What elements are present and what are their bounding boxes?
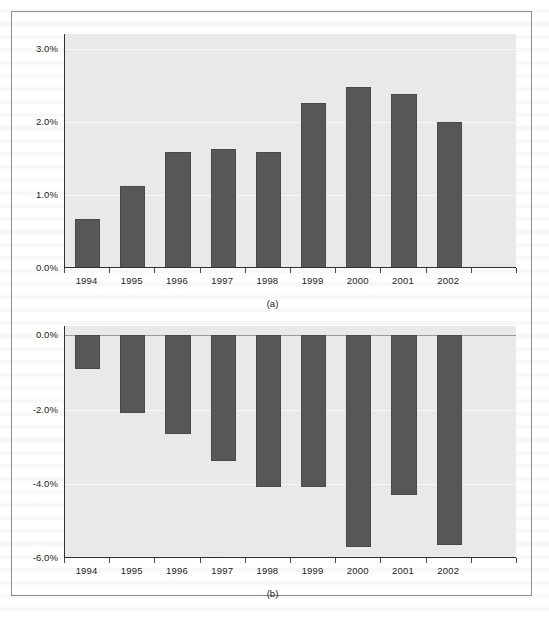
bar xyxy=(301,335,326,487)
plot-inner-a xyxy=(65,34,516,267)
bar xyxy=(301,103,326,267)
x-axis-tick xyxy=(200,558,201,563)
gridline xyxy=(65,49,516,50)
x-axis-tick xyxy=(335,558,336,563)
bar xyxy=(391,335,416,495)
x-axis-tick xyxy=(154,558,155,563)
bar xyxy=(165,335,190,433)
bar xyxy=(346,87,371,267)
chart-panel-b: 0.0%-2.0%-4.0%-6.0% 19941995199619971998… xyxy=(12,312,533,597)
x-axis-tick-label: 1999 xyxy=(302,565,324,576)
x-axis-tick xyxy=(245,268,246,273)
x-axis-tick-label: 2000 xyxy=(347,275,369,286)
chart-panel-a: 3.0%2.0%1.0%0.0% 19941995199619971998199… xyxy=(12,20,533,310)
x-axis-tick xyxy=(471,558,472,563)
x-axis-tick-label: 1996 xyxy=(166,275,188,286)
x-axis-a: 199419951996199719981999200020012002 xyxy=(64,268,516,296)
bar xyxy=(437,335,462,545)
x-axis-tick-label: 1995 xyxy=(121,565,143,576)
plot-area-b xyxy=(64,326,516,558)
x-axis-tick xyxy=(471,268,472,273)
x-axis-tick xyxy=(426,268,427,273)
x-axis-tick-label: 2002 xyxy=(437,275,459,286)
x-axis-tick-label: 2001 xyxy=(392,565,414,576)
bar xyxy=(165,152,190,267)
x-axis-tick xyxy=(290,268,291,273)
x-axis-tick xyxy=(290,558,291,563)
x-axis-tick xyxy=(245,558,246,563)
x-axis-tick-label: 1994 xyxy=(76,565,98,576)
bar xyxy=(211,149,236,267)
y-axis-tick-label: 1.0% xyxy=(36,190,58,200)
y-axis-tick-label: 0.0% xyxy=(36,263,58,273)
bar xyxy=(75,335,100,368)
x-axis-tick xyxy=(426,558,427,563)
x-axis-tick xyxy=(516,268,517,273)
bar xyxy=(256,335,281,487)
y-axis-tick-label: 3.0% xyxy=(36,44,58,54)
x-axis-tick xyxy=(380,268,381,273)
bar xyxy=(346,335,371,547)
bar xyxy=(437,122,462,267)
x-axis-tick-label: 1995 xyxy=(121,275,143,286)
x-axis-tick-label: 1997 xyxy=(211,275,233,286)
y-axis-labels-b: 0.0%-2.0%-4.0%-6.0% xyxy=(12,312,64,597)
x-axis-tick xyxy=(64,268,65,273)
x-axis-tick-label: 1994 xyxy=(76,275,98,286)
y-axis-tick-label: -6.0% xyxy=(33,553,58,563)
x-axis-tick xyxy=(154,268,155,273)
x-axis-b: 199419951996199719981999200020012002 xyxy=(64,558,516,586)
x-axis-tick xyxy=(64,558,65,563)
plot-inner-b xyxy=(65,326,516,557)
x-axis-tick-label: 2001 xyxy=(392,275,414,286)
bar xyxy=(120,186,145,267)
x-axis-tick-label: 1999 xyxy=(302,275,324,286)
x-axis-tick xyxy=(335,268,336,273)
x-axis-tick xyxy=(200,268,201,273)
x-axis-tick-label: 1997 xyxy=(211,565,233,576)
x-axis-tick-label: 1996 xyxy=(166,565,188,576)
plot-area-a xyxy=(64,34,516,268)
panel-caption-b: (b) xyxy=(12,588,533,599)
y-axis-tick-label: 0.0% xyxy=(36,331,58,341)
x-axis-tick xyxy=(109,268,110,273)
y-axis-tick-label: -2.0% xyxy=(33,405,58,415)
x-axis-tick xyxy=(109,558,110,563)
bar xyxy=(256,152,281,267)
panel-caption-a: (a) xyxy=(12,298,533,309)
figure-frame: 3.0%2.0%1.0%0.0% 19941995199619971998199… xyxy=(11,11,532,596)
x-axis-tick-label: 2002 xyxy=(437,565,459,576)
x-axis-tick xyxy=(516,558,517,563)
x-axis-tick-label: 1998 xyxy=(256,275,278,286)
x-axis-tick-label: 2000 xyxy=(347,565,369,576)
x-axis-tick-label: 1998 xyxy=(256,565,278,576)
bar xyxy=(75,219,100,267)
x-axis-tick xyxy=(380,558,381,563)
bar xyxy=(211,335,236,461)
bar xyxy=(391,94,416,267)
y-axis-labels-a: 3.0%2.0%1.0%0.0% xyxy=(12,20,64,310)
y-axis-tick-label: -4.0% xyxy=(33,479,58,489)
bar xyxy=(120,335,145,413)
y-axis-tick-label: 2.0% xyxy=(36,117,58,127)
